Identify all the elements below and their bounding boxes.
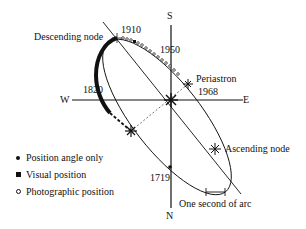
- legend-label: Photographic position: [26, 186, 114, 197]
- label-1968: 1968: [198, 86, 218, 97]
- label-east: E: [243, 94, 249, 105]
- legend-item-photographic: Photographic position: [10, 183, 114, 200]
- legend: Position angle only Visual position Phot…: [10, 149, 114, 200]
- legend-item-position-angle: Position angle only: [10, 149, 114, 166]
- label-1950: 1950: [160, 44, 180, 55]
- legend-label: Position angle only: [26, 152, 103, 163]
- label-west: W: [60, 94, 69, 105]
- position-1719: [168, 165, 172, 169]
- label-descending-node: Descending node: [34, 31, 103, 42]
- legend-item-visual: Visual position: [10, 166, 114, 183]
- label-1719: 1719: [150, 172, 170, 183]
- label-north: N: [166, 210, 173, 221]
- label-scale: One second of arc: [179, 198, 251, 209]
- square-icon: [10, 172, 26, 177]
- label-periastron: Periastron: [196, 73, 237, 84]
- legend-label: Visual position: [26, 169, 86, 180]
- circle-icon: [10, 189, 26, 194]
- apsidal-line: [131, 84, 188, 131]
- ascending-node-marker: [209, 143, 221, 155]
- visual-positions: [96, 38, 117, 113]
- periastron-star: [183, 79, 193, 89]
- label-south: S: [167, 10, 173, 21]
- primary-star: [164, 93, 178, 107]
- dot-icon: [10, 156, 26, 160]
- label-1820: 1820: [83, 84, 103, 95]
- label-1910: 1910: [121, 24, 141, 35]
- label-ascending-node: Ascending node: [225, 143, 290, 154]
